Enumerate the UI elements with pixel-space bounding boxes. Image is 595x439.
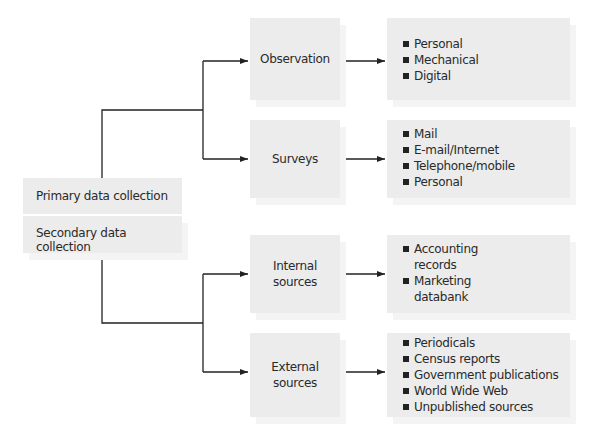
observation-methods-box: Personal Mechanical Digital: [387, 18, 570, 100]
list-item: World Wide Web: [403, 383, 558, 399]
external-sources-list: Periodicals Census reports Government pu…: [403, 335, 558, 415]
square-bullet-icon: [403, 73, 409, 79]
list-item: Unpublished sources: [403, 399, 558, 415]
list-item: Accountingrecords: [403, 241, 478, 273]
list-item: Digital: [403, 68, 479, 84]
internal-sources-box: Internalsources: [250, 235, 340, 313]
square-bullet-icon: [403, 57, 409, 63]
square-bullet-icon: [403, 41, 409, 47]
external-sources-items-box: Periodicals Census reports Government pu…: [387, 333, 570, 417]
primary-data-collection-box: Primary data collection: [23, 178, 182, 214]
square-bullet-icon: [403, 388, 409, 394]
list-item: Mail: [403, 126, 515, 142]
list-item: Mechanical: [403, 52, 479, 68]
square-bullet-icon: [403, 131, 409, 137]
surveys-box: Surveys: [250, 120, 340, 198]
list-item: E-mail/Internet: [403, 142, 515, 158]
square-bullet-icon: [403, 278, 409, 284]
list-item: Personal: [403, 174, 515, 190]
square-bullet-icon: [403, 147, 409, 153]
internal-sources-items-box: Accountingrecords Marketingdatabank: [387, 235, 570, 313]
secondary-data-collection-label: Secondary data collection: [36, 226, 182, 254]
square-bullet-icon: [403, 179, 409, 185]
observation-methods-list: Personal Mechanical Digital: [403, 36, 479, 84]
square-bullet-icon: [403, 372, 409, 378]
secondary-data-collection-box: Secondary data collection: [23, 216, 182, 253]
square-bullet-icon: [403, 356, 409, 362]
survey-methods-box: Mail E-mail/Internet Telephone/mobile Pe…: [387, 120, 570, 198]
external-sources-label: Externalsources: [271, 359, 318, 391]
square-bullet-icon: [403, 404, 409, 410]
list-item: Telephone/mobile: [403, 158, 515, 174]
external-sources-box: Externalsources: [250, 333, 340, 417]
internal-sources-list: Accountingrecords Marketingdatabank: [403, 241, 478, 305]
surveys-label: Surveys: [272, 151, 318, 167]
observation-box: Observation: [250, 18, 340, 100]
list-item: Government publications: [403, 367, 558, 383]
list-item: Personal: [403, 36, 479, 52]
survey-methods-list: Mail E-mail/Internet Telephone/mobile Pe…: [403, 126, 515, 190]
primary-data-collection-label: Primary data collection: [36, 189, 168, 203]
list-item: Marketingdatabank: [403, 273, 478, 305]
list-item: Census reports: [403, 351, 558, 367]
observation-label: Observation: [260, 51, 330, 67]
list-item: Periodicals: [403, 335, 558, 351]
internal-sources-label: Internalsources: [273, 258, 317, 290]
square-bullet-icon: [403, 246, 409, 252]
square-bullet-icon: [403, 340, 409, 346]
square-bullet-icon: [403, 163, 409, 169]
